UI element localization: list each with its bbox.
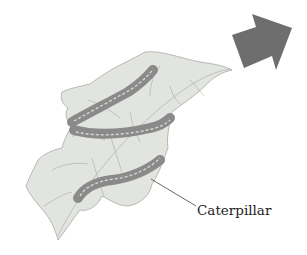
caterpillar-leader-line [151, 179, 196, 206]
caterpillar-label: Caterpillar [197, 202, 271, 218]
diagram-canvas: Caterpillar [0, 0, 307, 255]
direction-arrow-icon [232, 14, 292, 70]
